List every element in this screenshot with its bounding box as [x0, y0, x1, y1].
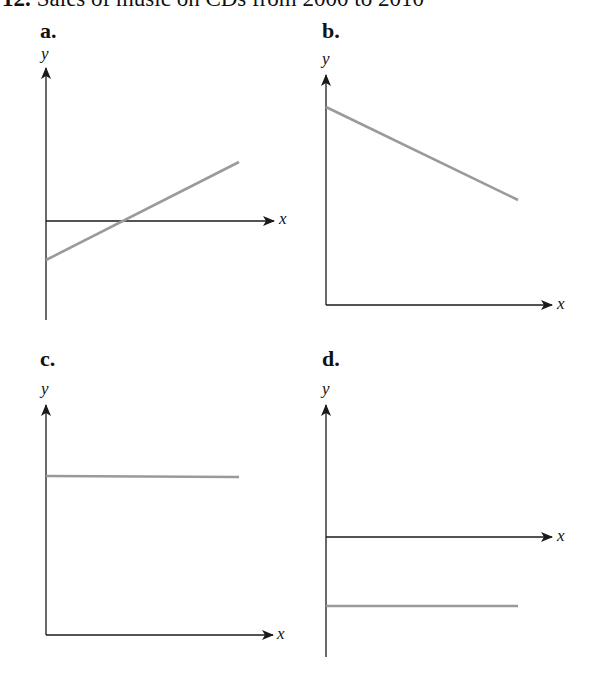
panel-c-chart [46, 405, 273, 635]
panel-d-chart [326, 405, 552, 657]
plots-canvas [0, 0, 599, 692]
panel-c-data-line [46, 476, 239, 477]
panel-b-chart [326, 75, 552, 305]
panel-a-data-line [46, 162, 239, 260]
panel-b-data-line [326, 107, 518, 200]
panel-a-chart [46, 68, 274, 320]
